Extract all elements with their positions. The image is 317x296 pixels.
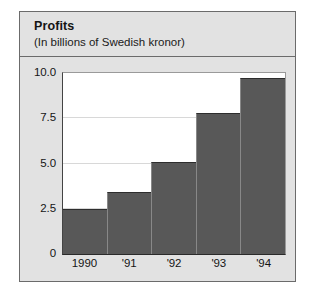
bar	[240, 78, 285, 254]
bar	[63, 209, 107, 254]
x-axis: 1990'91'92'93'94	[62, 257, 286, 269]
chart-subtitle: (In billions of Swedish kronor)	[34, 35, 295, 49]
bar	[107, 192, 152, 254]
x-axis-tick-label: 1990	[62, 257, 107, 269]
bar	[196, 113, 241, 254]
bar-series	[63, 73, 285, 254]
chart-title: Profits	[34, 19, 295, 33]
x-axis-tick-label: '91	[107, 257, 152, 269]
x-axis-tick-label: '94	[241, 257, 286, 269]
x-axis-tick-label: '93	[196, 257, 241, 269]
y-axis-tick-label: 2.5	[40, 202, 56, 214]
y-axis-tick-label: 7.5	[40, 111, 56, 123]
y-axis-tick-label: 0	[50, 247, 56, 259]
bar	[151, 162, 196, 254]
plot-area	[62, 72, 286, 255]
y-axis: 02.55.07.510.0	[20, 58, 60, 281]
plot-region: 02.55.07.510.0 1990'91'92'93'94	[20, 58, 295, 281]
x-axis-tick-label: '92	[152, 257, 197, 269]
y-axis-tick-label: 5.0	[40, 157, 56, 169]
y-axis-tick-label: 10.0	[34, 66, 56, 78]
chart-figure: Profits (In billions of Swedish kronor) …	[19, 11, 296, 282]
chart-header: Profits (In billions of Swedish kronor)	[20, 12, 295, 57]
